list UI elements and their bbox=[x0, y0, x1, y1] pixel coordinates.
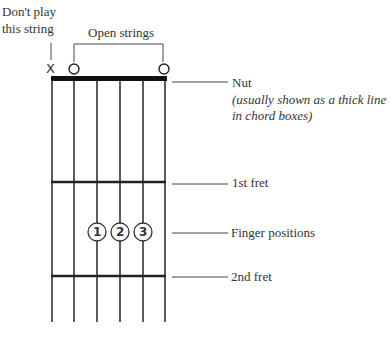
open-strings-bracket bbox=[74, 44, 163, 62]
open-string-icon bbox=[159, 64, 169, 74]
chord-box-graphic bbox=[0, 0, 391, 342]
nut-label: Nut bbox=[232, 75, 252, 90]
finger-positions-label: Finger positions bbox=[231, 225, 315, 240]
finger-number-1: 1 bbox=[93, 225, 101, 240]
finger-number-3: 3 bbox=[139, 225, 147, 240]
first-fret-label: 1st fret bbox=[232, 175, 268, 190]
nut bbox=[51, 76, 167, 81]
finger-number-2: 2 bbox=[116, 225, 124, 240]
nut-note-line1: (usually shown as a thick line bbox=[232, 92, 386, 107]
open-string-icon bbox=[69, 64, 79, 74]
dont-play-label-line2: this string bbox=[2, 21, 54, 36]
open-strings-label: Open strings bbox=[88, 25, 154, 40]
mute-string-icon: X bbox=[46, 61, 55, 76]
second-fret-label: 2nd fret bbox=[231, 269, 272, 284]
callout-lines bbox=[172, 82, 228, 277]
dont-play-label-line1: Don't play bbox=[2, 4, 56, 19]
strings bbox=[52, 80, 165, 322]
nut-note-line2: in chord boxes) bbox=[232, 108, 312, 123]
